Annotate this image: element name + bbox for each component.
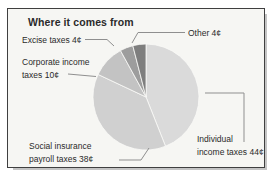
callout-individual-income-taxes: Individual income taxes 44¢	[197, 133, 264, 158]
callout-social-line1: Social insurance	[29, 140, 93, 153]
callout-excise-taxes: Excise taxes 4¢	[22, 34, 82, 47]
callout-social-line2: payroll taxes 38¢	[29, 153, 93, 166]
leader-other	[132, 33, 185, 44]
callout-social-insurance-payroll-taxes: Social insurance payroll taxes 38¢	[29, 140, 93, 165]
leader-excise	[85, 40, 114, 47]
chart-title: Where it comes from	[28, 16, 134, 28]
callout-individual-line1: Individual	[197, 133, 264, 146]
figure-screenshot: Where it comes from Excise taxes 4¢ Corp…	[0, 0, 274, 178]
callout-corporate-line2: taxes 10¢	[22, 69, 90, 82]
callout-other: Other 4¢	[188, 27, 221, 40]
callout-corporate-income-taxes: Corporate income taxes 10¢	[22, 56, 90, 81]
callout-excise-line1: Excise taxes 4¢	[22, 34, 82, 47]
callout-individual-line2: income taxes 44¢	[197, 146, 264, 159]
pie-chart	[93, 44, 199, 150]
figure-card: Where it comes from Excise taxes 4¢ Corp…	[7, 8, 265, 168]
callout-other-line1: Other 4¢	[188, 27, 221, 40]
callout-corporate-line1: Corporate income	[22, 56, 90, 69]
